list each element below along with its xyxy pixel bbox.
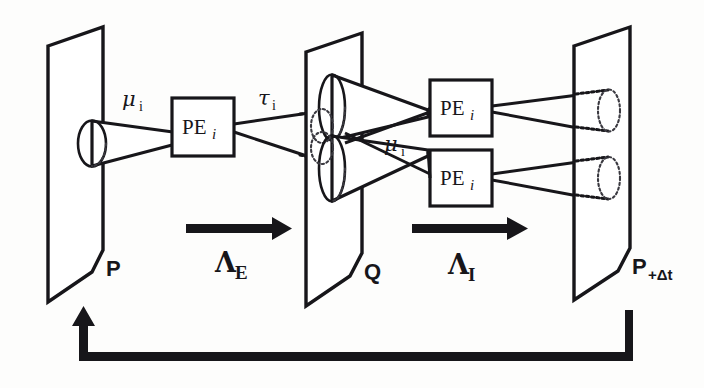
arrow-lambda-e-group: Λ E [186,217,292,283]
connectors-pe-right-to-output [492,95,578,196]
lambda-e-symbol: Λ [214,247,237,278]
lambda-e-subscript: E [235,262,248,283]
mu-left-subscript: i [139,99,143,114]
connector-out-upper-b [492,112,578,128]
connector-q-upper-to-pe-upper [428,108,430,110]
pe-right-lower-label: PE [440,166,465,190]
lambda-i-symbol: Λ [447,249,470,280]
diagram-canvas: μ i PE i τ i [0,0,704,388]
plane-p-delta-surface [574,27,630,300]
plane-q-label: Q [364,259,381,284]
field-label-tau: τ i [258,86,276,113]
diagram-svg: μ i PE i τ i [0,0,704,388]
pe-left-subscript: i [212,126,216,142]
pe-right-upper-label: PE [440,96,465,120]
feedback-loop-group [72,306,633,361]
pe-left-group[interactable]: PE i [172,98,234,156]
connector-out-lower-a [492,162,578,174]
pe-right-lower-group[interactable]: PE i [430,150,492,206]
field-label-mu-left: μ i [122,87,143,114]
tau-symbol: τ [258,86,270,110]
tau-subscript: i [272,98,276,113]
feedback-loop-arrow-icon [83,310,633,361]
mu-right-subscript: i [401,144,405,159]
arrow-lambda-i-group: Λ I [412,217,528,285]
plane-p-label-group: P [106,256,121,281]
plane-p-delta-label-group: P +Δt [632,254,673,283]
pe-left-label: PE [182,115,207,139]
plane-p-label: P [106,256,121,281]
pe-right-lower-subscript: i [470,177,474,193]
pe-right-upper-subscript: i [470,107,474,123]
lambda-e-arrow-icon [186,217,292,240]
pe-right-upper-group[interactable]: PE i [430,80,492,136]
connector-q-lower-to-pe-lower [428,150,430,178]
connector-out-lower-b [492,180,578,196]
connector-out-upper-a [492,95,578,106]
lambda-i-arrow-icon [412,217,528,240]
lambda-i-subscript: I [468,264,475,285]
plane-p-delta-sublabel: +Δt [648,266,673,283]
plane-p-delta-group [574,27,630,300]
plane-q-label-group: Q [364,259,381,284]
cone-q-lower-body [332,136,428,201]
plane-p-delta-label: P [632,254,647,279]
mu-left-symbol: μ [122,87,136,111]
